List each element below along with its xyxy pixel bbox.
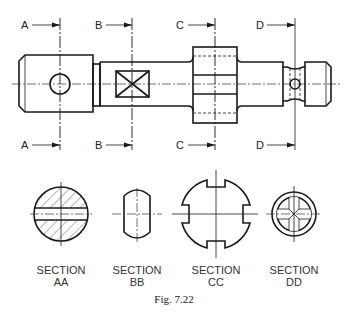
cutting-plane-d: D D (256, 18, 295, 151)
cutting-plane-label-bottom: A (21, 139, 29, 151)
section-name: CC (208, 276, 224, 288)
section-bb (112, 188, 162, 243)
section-name: BB (130, 276, 145, 288)
section-name: AA (54, 276, 69, 288)
section-title: SECTION (113, 264, 162, 276)
neck (93, 64, 100, 106)
section-dd (266, 186, 322, 242)
section-name: DD (286, 276, 302, 288)
cutting-plane-label-top: D (256, 19, 264, 31)
cutting-plane-label-top: A (21, 19, 29, 31)
cutting-plane-label-bottom: C (176, 139, 184, 151)
section-title: SECTION (270, 264, 319, 276)
section-title: SECTION (192, 264, 241, 276)
shaft-elevation (12, 47, 342, 123)
section-title: SECTION (37, 264, 86, 276)
cutting-plane-label-top: C (176, 19, 184, 31)
section-aa (30, 182, 92, 246)
cutting-plane-c: C C (176, 18, 215, 151)
section-cc (172, 170, 258, 258)
cutting-plane-label-top: B (95, 19, 102, 31)
cutting-plane-label-bottom: B (95, 139, 102, 151)
figure-caption: Fig. 7.22 (154, 293, 193, 305)
drawing-canvas: A A B B C C D D (0, 0, 352, 314)
cutting-plane-label-bottom: D (256, 139, 264, 151)
cutting-plane-a: A A (21, 18, 60, 151)
left-end-body (19, 55, 93, 112)
